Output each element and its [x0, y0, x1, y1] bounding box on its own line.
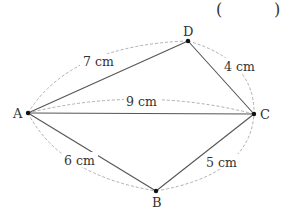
edge-bc	[156, 114, 254, 191]
vertex-label-c: C	[260, 107, 270, 122]
vertex-label-a: A	[12, 106, 23, 121]
quadrilateral-diagram: 7 cm 4 cm 9 cm 6 cm 5 cm A D C B	[0, 0, 287, 214]
vertex-label-b: B	[152, 195, 162, 210]
vertex-label-d: D	[183, 24, 193, 39]
point-a	[26, 111, 30, 115]
point-d	[186, 39, 190, 43]
edge-label-ab: 6 cm	[64, 153, 95, 168]
edge-label-ac: 9 cm	[126, 94, 157, 109]
edge-ac	[28, 113, 254, 114]
edge-ad	[28, 41, 188, 113]
edge-label-bc: 5 cm	[206, 155, 237, 170]
point-c	[252, 112, 256, 116]
edge-label-ad: 7 cm	[83, 54, 114, 69]
edge-label-dc: 4 cm	[224, 59, 255, 74]
point-b	[154, 189, 158, 193]
